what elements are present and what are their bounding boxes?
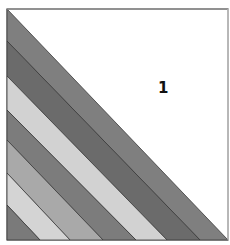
striped-triangle-diagram [0,0,230,245]
region-label-1: 1 [158,79,168,97]
